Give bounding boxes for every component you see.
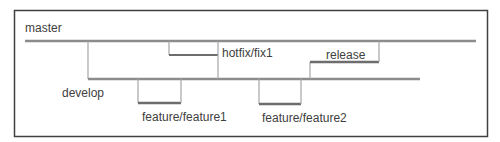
- master-label: master: [25, 21, 62, 35]
- develop-label: develop: [62, 86, 104, 100]
- git-flow-diagram: master develop hotfix/fix1 release featu…: [0, 0, 500, 142]
- release-label: release: [326, 48, 366, 62]
- feature1-label: feature/feature1: [142, 110, 227, 124]
- feature2-label: feature/feature2: [262, 111, 347, 125]
- hotfix-label: hotfix/fix1: [222, 46, 273, 60]
- diagram-frame: [15, 11, 488, 137]
